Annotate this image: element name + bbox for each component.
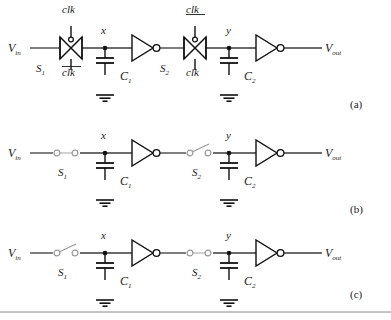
label-c1-c: C1 bbox=[120, 274, 132, 290]
label-node-x-c: x bbox=[100, 229, 106, 241]
label-vout-c: Vout bbox=[325, 246, 342, 262]
label-node-x-b: x bbox=[100, 129, 106, 141]
ground-c1-b bbox=[96, 200, 114, 206]
panel-tag-c: (c) bbox=[350, 288, 363, 301]
label-vin-a: Vin bbox=[8, 41, 21, 57]
panel-tag-a: (a) bbox=[350, 98, 363, 111]
label-c1-b: C1 bbox=[120, 174, 132, 190]
label-vout-a: Vout bbox=[325, 41, 342, 57]
circuit-diagram-svg: Vin Vout clk clk clk clk S1 S2 x y C1 C2… bbox=[0, 0, 391, 320]
panel-a bbox=[30, 15, 322, 102]
circuit-figure: Vin Vout clk clk clk clk S1 S2 x y C1 C2… bbox=[0, 0, 391, 320]
ground-c2-a bbox=[220, 95, 238, 101]
label-s2-a: S2 bbox=[160, 62, 170, 77]
label-vin-b: Vin bbox=[8, 146, 21, 162]
capacitor-c1-a bbox=[96, 48, 114, 75]
panel-b bbox=[30, 140, 322, 206]
inverter-1-c bbox=[132, 240, 160, 266]
label-c2-a: C2 bbox=[244, 69, 256, 85]
label-s2-c: S2 bbox=[192, 266, 202, 281]
inverter-1-b bbox=[132, 140, 160, 166]
label-node-y-b: y bbox=[225, 129, 231, 141]
label-node-y-c: y bbox=[225, 229, 231, 241]
switch-s2-closed-c[interactable] bbox=[187, 250, 211, 256]
capacitor-c2-c bbox=[220, 253, 238, 280]
label-clk-s1-top-a: clk bbox=[62, 3, 76, 15]
label-node-y-a: y bbox=[225, 24, 231, 36]
panel-tag-b: (b) bbox=[350, 203, 363, 216]
inverter-2-c bbox=[256, 240, 284, 266]
inverter-2-a bbox=[256, 35, 284, 61]
switch-s2-open-b[interactable] bbox=[187, 144, 211, 156]
label-s1-a: S1 bbox=[36, 62, 45, 77]
label-vin-c: Vin bbox=[8, 246, 21, 262]
capacitor-c1-c bbox=[96, 253, 114, 280]
capacitor-c2-a bbox=[220, 48, 238, 75]
label-c2-b: C2 bbox=[244, 174, 256, 190]
label-clk-s2-bottom-a: clk bbox=[186, 66, 200, 78]
panel-c bbox=[30, 240, 322, 306]
ground-c2-b bbox=[220, 200, 238, 206]
switch-s1-open-c[interactable] bbox=[54, 244, 78, 256]
label-s1-c: S1 bbox=[58, 266, 67, 281]
capacitor-c2-b bbox=[220, 153, 238, 180]
label-c2-c: C2 bbox=[244, 274, 256, 290]
inverter-1-a bbox=[132, 35, 160, 61]
switch-s1-closed-b[interactable] bbox=[54, 150, 78, 156]
transmission-gate-s2-a[interactable] bbox=[184, 26, 206, 70]
capacitor-c1-b bbox=[96, 153, 114, 180]
label-c1-a: C1 bbox=[120, 69, 132, 85]
ground-c1-c bbox=[96, 300, 114, 306]
label-clkbar-s1-bottom-a: clk bbox=[62, 66, 76, 78]
transmission-gate-s1-a[interactable] bbox=[60, 26, 82, 70]
ground-c1-a bbox=[96, 95, 114, 101]
ground-c2-c bbox=[220, 300, 238, 306]
label-node-x-a: x bbox=[100, 24, 106, 36]
label-s2-b: S2 bbox=[192, 166, 202, 181]
label-clkbar-s2-top-a: clk bbox=[186, 3, 200, 15]
label-s1-b: S1 bbox=[58, 166, 67, 181]
label-vout-b: Vout bbox=[325, 146, 342, 162]
inverter-2-b bbox=[256, 140, 284, 166]
